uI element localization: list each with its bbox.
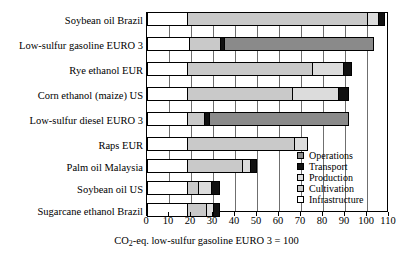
legend-label-operations: Operations bbox=[309, 150, 353, 161]
bar-segment-transport bbox=[343, 62, 352, 76]
bar-segment-infrastructure bbox=[147, 12, 187, 26]
category-label-7: Soybean oil US bbox=[4, 184, 146, 196]
category-label-3: Corn ethanol (maize) US bbox=[4, 90, 146, 102]
x-axis-title-subscript: 2 bbox=[129, 239, 133, 248]
bar-segment-operations bbox=[224, 37, 374, 51]
bar-row bbox=[147, 12, 385, 26]
bar-row bbox=[147, 112, 349, 126]
stacked-bar-chart: Soybean oil Brazil Low-sulfur gasoline E… bbox=[0, 0, 413, 264]
legend-item-cultivation[interactable]: Cultivation bbox=[297, 183, 403, 194]
legend-label-production: Production bbox=[309, 172, 353, 183]
bar-segment-cultivation bbox=[187, 181, 198, 195]
bar-segment-cultivation bbox=[187, 12, 367, 26]
bar-segment-operations bbox=[209, 112, 350, 126]
bar-segment-infrastructure bbox=[147, 137, 187, 151]
bar-segment-cultivation bbox=[187, 87, 293, 101]
category-label-5: Raps EUR bbox=[4, 140, 146, 152]
x-axis-title-pre: CO bbox=[114, 235, 129, 246]
bar-segment-transport bbox=[250, 159, 257, 173]
legend-item-infrastructure[interactable]: Infrastructure bbox=[297, 194, 403, 205]
bar-segment-production bbox=[294, 137, 307, 151]
bar-segment-infrastructure bbox=[147, 62, 187, 76]
legend: OperationsTransportProductionCultivation… bbox=[297, 150, 403, 205]
legend-swatch-infrastructure bbox=[297, 196, 304, 203]
legend-label-transport: Transport bbox=[309, 161, 348, 172]
tick-label-110: 110 bbox=[375, 215, 401, 227]
x-axis-title-post: -eq. low-sulfur gasoline EURO 3 = 100 bbox=[133, 235, 299, 246]
legend-label-cultivation: Cultivation bbox=[309, 183, 354, 194]
bar-segment-infrastructure bbox=[147, 37, 189, 51]
legend-swatch-operations bbox=[297, 152, 304, 159]
bar-segment-cultivation bbox=[187, 112, 205, 126]
legend-item-transport[interactable]: Transport bbox=[297, 161, 403, 172]
bar-segment-infrastructure bbox=[147, 87, 187, 101]
bar-segment-production bbox=[242, 159, 251, 173]
bar-segment-cultivation bbox=[187, 137, 295, 151]
legend-swatch-cultivation bbox=[297, 185, 304, 192]
category-label-0: Soybean oil Brazil bbox=[4, 15, 146, 27]
bar-row bbox=[147, 159, 257, 173]
bar-segment-transport bbox=[338, 87, 349, 101]
category-label-6: Palm oil Malaysia bbox=[4, 162, 146, 174]
category-label-2: Rye ethanol EUR bbox=[4, 65, 146, 77]
category-axis-labels: Soybean oil Brazil Low-sulfur gasoline E… bbox=[0, 12, 146, 212]
bar-segment-cultivation bbox=[187, 159, 242, 173]
legend-swatch-transport bbox=[297, 163, 304, 170]
bar-row bbox=[147, 62, 352, 76]
bar-segment-transport bbox=[378, 12, 385, 26]
bar-row bbox=[147, 181, 220, 195]
x-axis-title: CO2-eq. low-sulfur gasoline EURO 3 = 100 bbox=[0, 234, 413, 248]
bar-segment-infrastructure bbox=[147, 112, 187, 126]
category-label-1: Low-sulfur gasoline EURO 3 bbox=[4, 40, 146, 52]
bar-segment-transport bbox=[211, 181, 220, 195]
bar-segment-cultivation bbox=[187, 62, 312, 76]
bar-segment-infrastructure bbox=[147, 181, 187, 195]
category-label-4: Low-sulfur diesel EURO 3 bbox=[4, 115, 146, 127]
legend-item-production[interactable]: Production bbox=[297, 172, 403, 183]
bar-segment-production bbox=[292, 87, 338, 101]
bar-row bbox=[147, 87, 349, 101]
bar-segment-cultivation bbox=[189, 37, 220, 51]
bar-segment-production bbox=[367, 12, 378, 26]
bar-row bbox=[147, 137, 308, 151]
legend-label-infrastructure: Infrastructure bbox=[309, 194, 363, 205]
category-label-8: Sugarcane ethanol Brazil bbox=[4, 206, 146, 218]
bar-row bbox=[147, 37, 374, 51]
bar-segment-infrastructure bbox=[147, 159, 187, 173]
bar-segment-production bbox=[312, 62, 343, 76]
legend-item-operations[interactable]: Operations bbox=[297, 150, 403, 161]
bar-segment-production bbox=[198, 181, 211, 195]
legend-swatch-production bbox=[297, 174, 304, 181]
